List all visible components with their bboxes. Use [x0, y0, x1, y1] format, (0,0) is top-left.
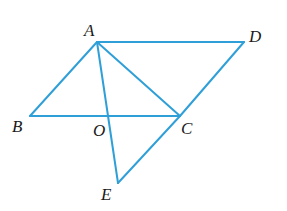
- segment-ae: [97, 42, 118, 183]
- segment-ab: [30, 42, 97, 116]
- point-label-b: B: [12, 117, 23, 136]
- segment-ce: [118, 116, 180, 183]
- point-label-o: O: [93, 121, 105, 140]
- geometry-figure: ADBOCE: [0, 0, 287, 211]
- segments-group: [30, 42, 244, 183]
- point-label-c: C: [181, 119, 193, 138]
- segment-ac: [97, 42, 180, 116]
- segment-dc: [180, 42, 244, 116]
- geometry-diagram-canvas: ADBOCE: [0, 0, 287, 211]
- labels-group: ADBOCE: [12, 21, 262, 204]
- point-label-e: E: [100, 185, 112, 204]
- point-label-a: A: [83, 21, 95, 40]
- point-label-d: D: [248, 27, 262, 46]
